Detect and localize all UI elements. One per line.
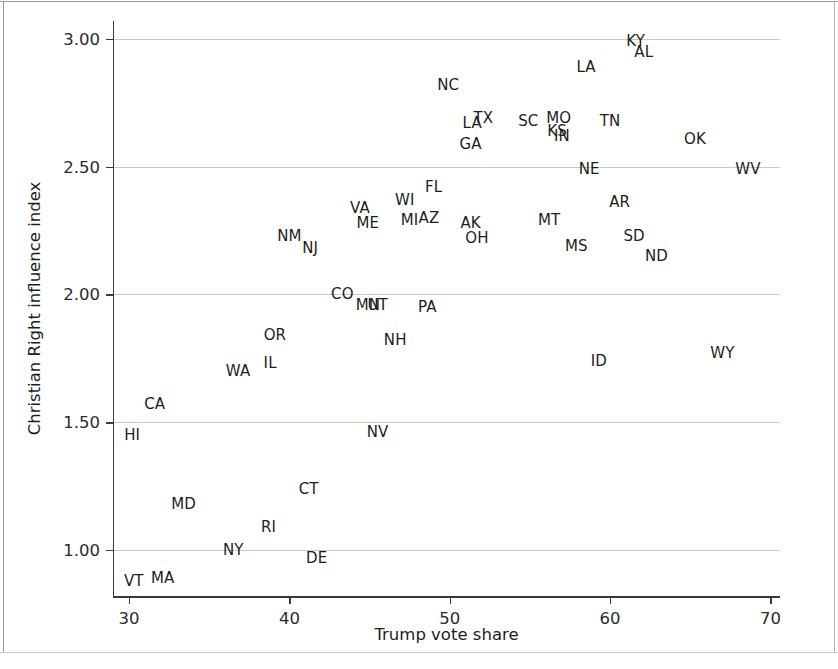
gridline <box>113 422 780 423</box>
gridline <box>113 167 780 168</box>
x-tick <box>289 596 290 604</box>
data-point-label: NC <box>437 76 459 94</box>
data-point-label: VT <box>124 572 144 590</box>
y-tick-label: 2.00 <box>63 285 100 304</box>
data-point-label: AL <box>634 43 653 61</box>
y-tick <box>106 422 114 423</box>
gridline <box>113 550 780 551</box>
data-point-label: MS <box>565 237 588 255</box>
data-point-label: OR <box>264 326 286 344</box>
plot-area: 1.001.502.002.503.00 3040506070 KYALLANC… <box>113 21 780 596</box>
data-point-label: GA <box>460 135 482 153</box>
data-point-label: RI <box>261 518 276 536</box>
y-tick-label: 3.00 <box>63 29 100 48</box>
data-point-label: WA <box>226 362 250 380</box>
data-point-label: ID <box>591 352 607 370</box>
data-point-label: CA <box>144 395 165 413</box>
data-point-label: MD <box>171 495 196 513</box>
data-point-label: TX <box>474 109 494 127</box>
x-tick-label: 70 <box>760 609 781 628</box>
data-point-label: SC <box>518 112 538 130</box>
data-point-label: PA <box>418 298 437 316</box>
data-point-label: NV <box>367 423 389 441</box>
data-point-label: MI <box>401 211 419 229</box>
data-point-label: AR <box>609 193 630 211</box>
x-tick <box>610 596 611 604</box>
x-tick <box>770 596 771 604</box>
x-tick <box>450 596 451 604</box>
figure-border-bottom <box>0 652 838 653</box>
x-tick-label: 50 <box>439 609 460 628</box>
data-point-label: WV <box>735 160 760 178</box>
x-tick-label: 60 <box>600 609 621 628</box>
y-axis-line <box>113 21 114 596</box>
data-point-label: HI <box>124 426 140 444</box>
data-point-label: NH <box>384 331 407 349</box>
data-point-label: IL <box>264 354 277 372</box>
figure-border-top <box>0 1 838 2</box>
figure-border-left <box>3 1 4 653</box>
gridline <box>113 39 780 40</box>
data-point-label: IN <box>554 127 570 145</box>
data-point-label: TN <box>600 112 621 130</box>
x-axis-line <box>113 596 780 598</box>
data-point-label: FL <box>425 178 442 196</box>
data-point-label: DE <box>306 549 327 567</box>
data-point-label: MA <box>151 569 174 587</box>
data-point-label: NY <box>223 541 244 559</box>
y-axis-title: Christian Right influence index <box>22 21 46 596</box>
data-point-label: UT <box>367 296 387 314</box>
data-point-label: MT <box>538 211 560 229</box>
y-tick-label: 2.50 <box>63 157 100 176</box>
y-tick-label: 1.00 <box>63 541 100 560</box>
y-tick <box>106 550 114 551</box>
data-point-label: ND <box>645 247 668 265</box>
y-tick <box>106 39 114 40</box>
data-point-label: CO <box>331 285 353 303</box>
gridline <box>113 294 780 295</box>
data-point-label: ME <box>357 214 380 232</box>
y-tick <box>106 294 114 295</box>
scatter-plot-figure: Christian Right influence index Trump vo… <box>0 0 838 669</box>
data-point-label: WY <box>710 344 734 362</box>
x-tick-label: 40 <box>279 609 300 628</box>
data-point-label: OH <box>465 229 488 247</box>
data-point-label: NJ <box>302 239 318 257</box>
data-point-label: OK <box>684 130 706 148</box>
data-point-label: NE <box>579 160 600 178</box>
y-tick-label: 1.50 <box>63 413 100 432</box>
data-point-label: LA <box>576 58 595 76</box>
x-tick <box>129 596 130 604</box>
y-tick <box>106 167 114 168</box>
data-point-label: NM <box>277 227 301 245</box>
data-point-label: CT <box>299 480 319 498</box>
data-point-label: SD <box>623 227 644 245</box>
figure-border-right <box>834 1 835 653</box>
data-point-label: AZ <box>419 209 440 227</box>
x-tick-label: 30 <box>119 609 140 628</box>
data-point-label: WI <box>395 191 414 209</box>
